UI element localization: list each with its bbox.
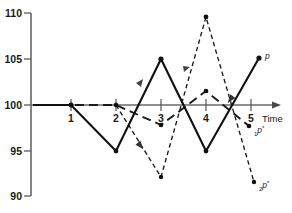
direction-arrows [136,66,190,87]
series-2pstar-label: 2p* [259,180,270,192]
series-2pstar-point-3 [159,175,163,179]
series-1pstar-point-2 [114,103,119,108]
series-p-point-1 [69,103,74,108]
series-1pstar-point-5 [247,124,252,129]
x-tick-label-2: 2 [113,112,119,124]
series-p-point-3 [158,56,163,61]
series-p-point-5 [256,55,261,60]
series-1pstar-label: 1p* [254,125,265,137]
y-tick-label-100: 100 [4,99,22,111]
y-tick-label-110: 110 [5,7,22,19]
x-axis: 1 2 3 4 5 Time [31,99,283,124]
series-2pstar-direction-arrow-a [136,140,147,150]
y-tick-label-95: 95 [10,145,22,157]
series-2pstar-sup: * [267,180,270,186]
y-axis: 110 105 100 95 90 [4,7,31,202]
series-p-point-2 [114,149,119,154]
series-2pstar-path [116,17,254,182]
arrow-1pstar-up [136,79,143,87]
series-2pstar-point-5 [252,180,256,184]
x-tick-label-5: 5 [248,112,254,124]
series-p-point-4 [204,149,209,154]
x-axis-title: Time [262,113,283,124]
series-2pstar-point-4 [204,15,209,20]
line-chart: 110 105 100 95 90 1 2 3 4 5 Time [0,0,292,213]
chart-container: 110 105 100 95 90 1 2 3 4 5 Time [0,0,292,213]
series-1pstar-point-3 [159,123,164,128]
x-tick-label-1: 1 [68,112,74,124]
series-p: p [33,51,270,153]
y-tick-label-105: 105 [4,53,22,65]
series-p-label: p [264,51,270,61]
y-tick-label-90: 90 [10,190,22,202]
x-tick-label-3: 3 [158,112,164,124]
x-tick-label-4: 4 [203,112,209,124]
series-1pstar-sup: * [262,125,265,131]
series-1pstar-path [33,91,249,126]
x-axis-arrowhead [272,102,281,109]
series-1pstar-point-4 [204,89,209,94]
arrow-2pstar-up [183,66,190,72]
